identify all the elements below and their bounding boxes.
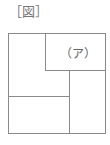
region-a-bottom-edge bbox=[45, 70, 106, 71]
outer-bottom-edge bbox=[8, 133, 106, 134]
outer-left-edge bbox=[8, 33, 9, 134]
outer-top-edge bbox=[8, 33, 106, 34]
lower-left-divider bbox=[8, 96, 70, 97]
region-a-left-edge bbox=[45, 33, 46, 71]
figure-caption: ［図］ bbox=[9, 1, 48, 20]
region-a-label: （ア） bbox=[60, 44, 96, 61]
right-column-divider bbox=[69, 70, 70, 134]
outer-right-edge bbox=[105, 33, 106, 134]
